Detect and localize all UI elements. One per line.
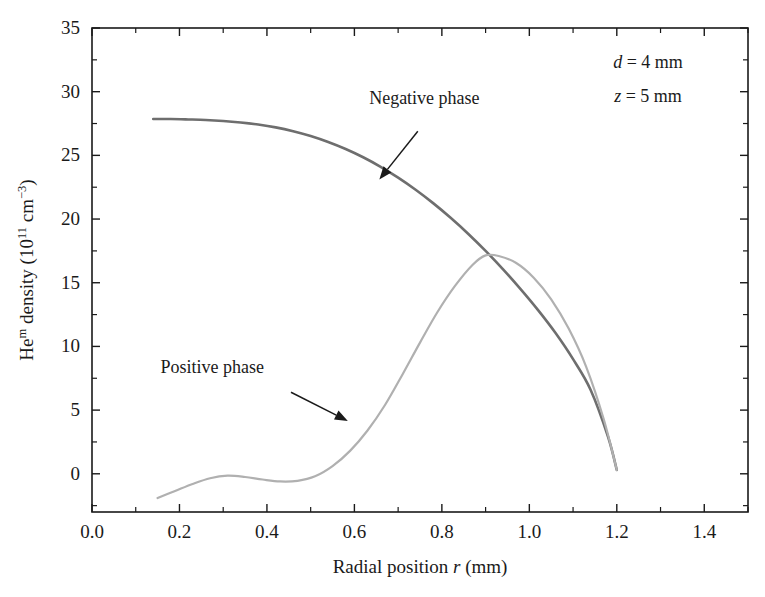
y-tick-label: 15 [61, 272, 80, 293]
positive-phase-annotation-arrow-head [334, 411, 348, 421]
x-tick-label: 1.4 [692, 521, 716, 542]
z-parameter: z = 5 mm [613, 86, 682, 106]
y-axis-title: Hem density (1011 cm−3) [15, 179, 38, 360]
negative-phase-annotation-arrow-line [387, 131, 417, 169]
chart-figure: 0.00.20.40.60.81.01.21.4 05101520253035 … [0, 0, 765, 597]
y-tick-label: 20 [61, 208, 80, 229]
x-tick-label: 0.2 [168, 521, 192, 542]
x-tick-label: 1.0 [517, 521, 541, 542]
y-tick-label: 5 [71, 399, 81, 420]
positive-phase-annotation-arrow-line [291, 392, 336, 415]
negative-phase-annotation-label: Negative phase [369, 88, 479, 108]
axis-titles: Radial position r (mm) Hem density (1011… [15, 179, 507, 578]
y-tick-label: 10 [61, 335, 80, 356]
y-axis-tick-labels: 05101520253035 [61, 17, 80, 484]
y-axis-minor-ticks [92, 60, 748, 506]
x-axis-title: Radial position r (mm) [333, 556, 508, 578]
x-tick-label: 0.4 [255, 521, 279, 542]
y-tick-label: 35 [61, 17, 80, 38]
parameter-annotations: d = 4 mmz = 5 mm [613, 52, 683, 106]
positive-phase-annotation-label: Positive phase [161, 357, 265, 377]
d-parameter: d = 4 mm [613, 52, 683, 72]
x-tick-label: 0.8 [430, 521, 454, 542]
x-tick-label: 0.0 [80, 521, 104, 542]
y-tick-label: 0 [71, 463, 81, 484]
x-axis-tick-labels: 0.00.20.40.60.81.01.21.4 [80, 521, 717, 542]
x-tick-label: 1.2 [605, 521, 629, 542]
y-tick-label: 30 [61, 81, 80, 102]
x-tick-label: 0.6 [343, 521, 367, 542]
chart-canvas: 0.00.20.40.60.81.01.21.4 05101520253035 … [0, 0, 765, 597]
y-tick-label: 25 [61, 144, 80, 165]
